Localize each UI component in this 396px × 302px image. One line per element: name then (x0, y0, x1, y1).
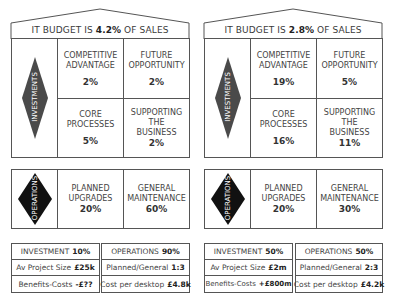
operations-box: OPERATIONS PLANNED UPGRADES 20% GENERAL … (204, 169, 383, 229)
summary-row: Av Project Size£25k (12, 260, 99, 276)
cell-general-maintenance: GENERAL MAINTENANCE 60% (124, 170, 189, 228)
summary-investment-table: INVESTMENT50% Av Project Size£2m Benefit… (204, 243, 293, 293)
cell-competitive-advantage: COMPETITIVE ADVANTAGE 2% (58, 39, 123, 98)
cell-supporting-business: SUPPORTING THE BUSINESS 11% (317, 99, 382, 157)
summary-operations-table: OPERATIONS90% Planned/General1:3 Cost pe… (101, 243, 190, 293)
budget-title: IT BUDGET IS 2.8% OF SALES (204, 25, 382, 35)
cell-core-processes: CORE PROCESSES 16% (251, 99, 316, 157)
summary-row: INVESTMENT50% (205, 244, 292, 260)
summary-operations-table: OPERATIONS50% Planned/General2:3 Cost pe… (295, 243, 383, 293)
operations-box: OPERATIONS PLANNED UPGRADES 20% GENERAL … (11, 169, 190, 229)
cell-supporting-business: SUPPORTING THE BUSINESS 2% (124, 99, 189, 157)
cell-planned-upgrades: PLANNED UPGRADES 20% (251, 170, 316, 228)
summary-row: OPERATIONS90% (102, 244, 189, 260)
budget-percent: 2.8% (289, 25, 314, 35)
summary-row: OPERATIONS50% (296, 244, 382, 260)
operations-label: OPERATIONS (224, 168, 232, 228)
investments-label: INVESTMENTS (31, 67, 39, 127)
cell-future-opportunity: FUTURE OPPORTUNITY 2% (124, 39, 189, 98)
summary-row: INVESTMENT10% (12, 244, 99, 260)
summary-row: Planned/General2:3 (296, 260, 382, 276)
summary-row: Cost per desktop£4.2k (296, 276, 382, 292)
cell-planned-upgrades: PLANNED UPGRADES 20% (58, 170, 123, 228)
investments-box: INVESTMENTS COMPETITIVE ADVANTAGE 19% FU… (204, 38, 383, 158)
investments-box: INVESTMENTS COMPETITIVE ADVANTAGE 2% FUT… (11, 38, 190, 158)
summary-row: Benefits-Costs-£?? (12, 276, 99, 292)
cell-competitive-advantage: COMPETITIVE ADVANTAGE 19% (251, 39, 316, 98)
budget-title: IT BUDGET IS 4.2% OF SALES (11, 25, 189, 35)
cell-general-maintenance: GENERAL MAINTENANCE 30% (317, 170, 382, 228)
operations-label: OPERATIONS (31, 168, 39, 228)
cell-core-processes: CORE PROCESSES 5% (58, 99, 123, 157)
cell-future-opportunity: FUTURE OPPORTUNITY 5% (317, 39, 382, 98)
summary-row: Planned/General1:3 (102, 260, 189, 276)
budget-percent: 4.2% (96, 25, 121, 35)
summary-investment-table: INVESTMENT10% Av Project Size£25k Benefi… (11, 243, 100, 293)
investments-label: INVESTMENTS (224, 67, 232, 127)
house-left: IT BUDGET IS 4.2% OF SALES INVESTMENTS C… (0, 0, 198, 302)
summary-row: Cost per desktop£4.8k (102, 276, 189, 292)
summary-row: Benefits-Costs+£800m (205, 276, 292, 292)
house-right: IT BUDGET IS 2.8% OF SALES INVESTMENTS C… (193, 0, 396, 302)
summary-row: Av Project Size£2m (205, 260, 292, 276)
